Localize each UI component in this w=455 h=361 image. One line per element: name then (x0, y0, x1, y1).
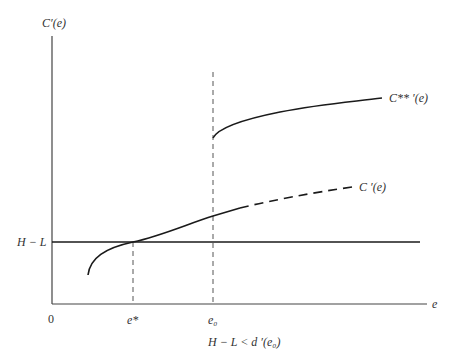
origin-label: 0 (48, 313, 54, 325)
c-double-star-curve (213, 98, 382, 138)
diagram-svg (0, 0, 455, 361)
x-axis-label: e (432, 298, 437, 310)
diagram-canvas: C′(e) e 0 H − L e* e₀ C** ′(e) C ′(e) H … (0, 0, 455, 361)
c-prime-curve-dashed (240, 187, 352, 208)
lower-curve-label: C ′(e) (359, 181, 386, 193)
h-minus-l-label: H − L (17, 236, 46, 248)
upper-curve-label: C** ′(e) (389, 92, 428, 104)
caption: H − L < d ′(e₀) (208, 336, 280, 348)
e-star-tick-label: e* (127, 314, 138, 326)
y-axis-label: C′(e) (42, 17, 66, 29)
e-zero-tick-label: e₀ (208, 314, 218, 326)
